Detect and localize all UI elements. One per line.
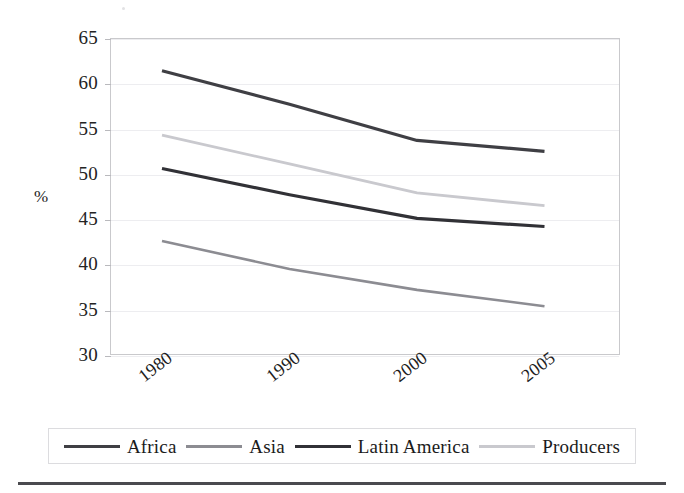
footer-rule xyxy=(18,482,666,485)
legend-item[interactable]: Africa xyxy=(64,437,177,456)
y-tick-label: 50 xyxy=(79,164,98,183)
page-speck-artifact xyxy=(122,7,125,10)
series-line xyxy=(162,71,545,152)
y-tick-mark xyxy=(105,356,111,357)
legend-item[interactable]: Asia xyxy=(186,437,285,456)
y-tick-label: 45 xyxy=(79,209,98,228)
legend-swatch-line-icon xyxy=(64,445,120,448)
y-tick-label: 35 xyxy=(79,300,98,319)
legend-swatch-line-icon xyxy=(479,445,535,448)
legend-item[interactable]: Latin America xyxy=(295,437,470,456)
legend-label: Producers xyxy=(542,437,620,456)
series-group xyxy=(111,39,621,356)
line-chart-figure: % 3035404550556065 1980199020002005 Afri… xyxy=(0,0,684,493)
legend-label: Africa xyxy=(127,437,177,456)
y-tick-label: 40 xyxy=(79,254,98,273)
y-tick-label: 55 xyxy=(79,119,98,138)
y-tick-label: 60 xyxy=(79,73,98,92)
legend-label: Latin America xyxy=(358,437,470,456)
legend-swatch-line-icon xyxy=(186,445,242,448)
plot-area xyxy=(110,38,620,355)
legend-swatch-line-icon xyxy=(295,445,351,448)
legend-item[interactable]: Producers xyxy=(479,437,620,456)
y-tick-label: 30 xyxy=(79,345,98,364)
y-axis-title: % xyxy=(34,188,48,205)
chart-legend: AfricaAsiaLatin AmericaProducers xyxy=(48,428,636,464)
legend-label: Asia xyxy=(249,437,285,456)
series-line xyxy=(162,241,545,306)
y-tick-label: 65 xyxy=(79,28,98,47)
